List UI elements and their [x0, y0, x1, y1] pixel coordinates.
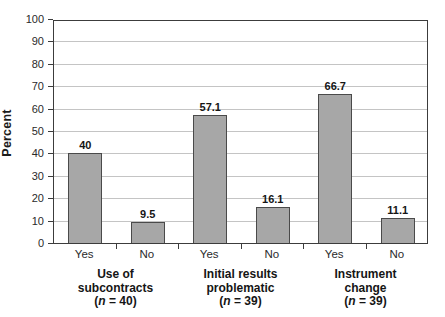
y-tick-label: 0 [10, 238, 44, 249]
x-category-label: Yes [309, 248, 359, 260]
group-label-line: change [306, 282, 426, 296]
y-tick-label: 60 [10, 104, 44, 115]
y-tick [48, 131, 53, 132]
gridline [54, 176, 427, 177]
y-tick [48, 153, 53, 154]
plot-area: 409.557.116.166.711.1 [53, 20, 428, 244]
group-label-line: Initial results [181, 268, 301, 282]
y-tick [48, 176, 53, 177]
bar [318, 94, 352, 243]
gridline [54, 109, 427, 110]
gridline [54, 86, 427, 87]
y-tick-label: 70 [10, 81, 44, 92]
bar-value-label: 16.1 [243, 193, 303, 205]
x-category-label: No [372, 248, 422, 260]
group-label-line: Instrument [306, 268, 426, 282]
x-tick [366, 244, 367, 249]
bar [131, 222, 165, 243]
gridline [54, 198, 427, 199]
y-tick [48, 19, 53, 20]
y-tick-label: 40 [10, 148, 44, 159]
bar [256, 207, 290, 243]
y-tick [48, 86, 53, 87]
bar [193, 115, 227, 243]
group-label-line: problematic [181, 282, 301, 296]
x-tick [116, 244, 117, 249]
bar [68, 153, 102, 243]
x-tick [178, 244, 179, 249]
y-tick [48, 64, 53, 65]
y-tick [48, 221, 53, 222]
y-tick-label: 20 [10, 193, 44, 204]
x-category-label: No [247, 248, 297, 260]
group-label: Initial resultsproblematic(n = 39) [181, 268, 301, 309]
y-tick [48, 41, 53, 42]
gridline [54, 153, 427, 154]
group-label-line: subcontracts [56, 282, 176, 296]
x-tick [241, 244, 242, 249]
group-label: Instrumentchange(n = 39) [306, 268, 426, 309]
x-category-label: Yes [184, 248, 234, 260]
group-n-label: (n = 39) [306, 295, 426, 309]
group-label: Use ofsubcontracts(n = 40) [56, 268, 176, 309]
y-tick-label: 50 [10, 126, 44, 137]
x-category-label: Yes [59, 248, 109, 260]
gridline [54, 221, 427, 222]
group-n-label: (n = 40) [56, 295, 176, 309]
y-tick-label: 10 [10, 216, 44, 227]
bar [381, 218, 415, 243]
bar-value-label: 40 [55, 139, 115, 151]
y-tick [48, 243, 53, 244]
group-label-line: Use of [56, 268, 176, 282]
x-tick [303, 244, 304, 249]
gridline [54, 64, 427, 65]
group-n-label: (n = 39) [181, 295, 301, 309]
y-tick-label: 100 [10, 14, 44, 25]
y-tick-label: 80 [10, 59, 44, 70]
gridline [54, 131, 427, 132]
bar-chart-figure: Percent 409.557.116.166.711.1 0102030405… [0, 0, 445, 317]
bar-value-label: 66.7 [305, 80, 365, 92]
y-tick [48, 109, 53, 110]
gridline [54, 41, 427, 42]
y-tick-label: 90 [10, 36, 44, 47]
y-tick-label: 30 [10, 171, 44, 182]
bar-value-label: 9.5 [118, 208, 178, 220]
x-category-label: No [122, 248, 172, 260]
bar-value-label: 11.1 [368, 204, 428, 216]
y-tick [48, 198, 53, 199]
bar-value-label: 57.1 [180, 101, 240, 113]
